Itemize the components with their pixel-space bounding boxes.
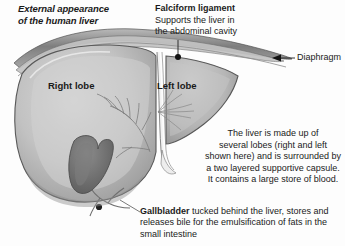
figure-title: External appearance of the human liver [18, 3, 158, 27]
diaphragm-label: Diaphragm [297, 52, 341, 63]
gallbladder-caption: Gallbladder tucked behind the liver, sto… [140, 206, 345, 240]
falciform-description-line1: Supports the liver in [155, 15, 280, 26]
liver-anatomy-figure: External appearance of the human liver F… [0, 0, 345, 246]
liver-description-paragraph: The liver is made up of several lobes (r… [203, 128, 343, 186]
falciform-ligament-heading: Falciform ligament [155, 3, 275, 14]
liver-description-line4: a two layered supportive capsule. [203, 163, 343, 175]
gallbladder-heading: Gallbladder [140, 206, 190, 216]
falciform-ligament-description: Supports the liver in the abdominal cavi… [155, 15, 280, 37]
right-lobe-label: Right lobe [48, 80, 94, 91]
falciform-description-line2: the abdominal cavity [155, 26, 280, 37]
liver-description-line1: The liver is made up of [203, 128, 343, 140]
liver-description-line5: It contains a large store of blood. [203, 174, 343, 186]
left-lobe-label: Left lobe [157, 80, 197, 91]
liver-description-line2: several lobes (right and left [203, 140, 343, 152]
gallbladder-leader [120, 200, 140, 212]
figure-title-line2: of the human liver [18, 15, 158, 27]
liver-description-line3: shown here) and is surrounded by [203, 151, 343, 163]
figure-title-line1: External appearance [18, 3, 158, 15]
